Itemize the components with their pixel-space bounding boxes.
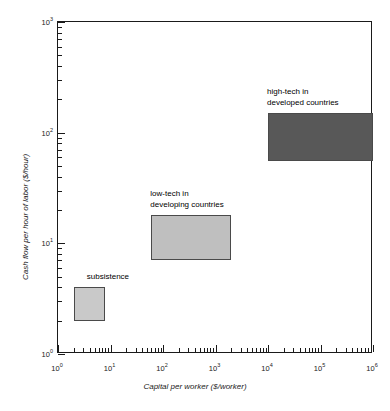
- y-tick-minor: [58, 210, 62, 211]
- x-tick-minor: [346, 348, 347, 352]
- x-tick-minor: [231, 348, 232, 352]
- x-tick-minor: [368, 348, 369, 352]
- x-tick-major: [321, 345, 322, 352]
- y-tick-minor: [58, 254, 62, 255]
- x-tick-minor: [300, 348, 301, 352]
- y-tick-minor: [58, 99, 62, 100]
- plot-area: [57, 21, 372, 353]
- x-tick-minor: [136, 348, 137, 352]
- region-label-subsistence: subsistence: [87, 271, 129, 282]
- y-tick-minor: [58, 277, 62, 278]
- x-tick-minor: [263, 348, 264, 352]
- x-tick-minor: [256, 348, 257, 352]
- log-log-chart-figure: Cash flow per hour of labor ($/hour) Cap…: [0, 0, 390, 411]
- x-tick-label: 101: [90, 363, 130, 372]
- x-tick-minor: [371, 348, 372, 352]
- y-tick-minor: [58, 143, 62, 144]
- x-tick-minor: [241, 348, 242, 352]
- y-tick-major: [58, 133, 65, 134]
- y-tick-minor: [58, 301, 62, 302]
- x-tick-minor: [312, 348, 313, 352]
- x-tick-minor: [357, 348, 358, 352]
- x-tick-minor: [161, 348, 162, 352]
- y-tick-minor: [58, 166, 62, 167]
- y-tick-minor: [58, 157, 62, 158]
- x-tick-minor: [213, 348, 214, 352]
- x-tick-minor: [200, 348, 201, 352]
- y-tick-minor: [58, 260, 62, 261]
- x-tick-minor: [361, 348, 362, 352]
- x-tick-minor: [90, 348, 91, 352]
- y-tick-minor: [58, 39, 62, 40]
- x-tick-minor: [126, 348, 127, 352]
- y-tick-minor: [58, 47, 62, 48]
- y-tick-minor: [58, 55, 62, 56]
- x-tick-minor: [318, 348, 319, 352]
- x-tick-major: [58, 345, 59, 352]
- x-tick-minor: [95, 348, 96, 352]
- x-tick-major: [373, 345, 374, 352]
- x-tick-minor: [195, 348, 196, 352]
- y-tick-label: 102: [42, 128, 53, 137]
- y-tick-minor: [58, 66, 62, 67]
- x-tick-label: 104: [247, 363, 287, 372]
- y-tick-minor: [58, 27, 62, 28]
- y-tick-minor: [58, 177, 62, 178]
- x-tick-minor: [142, 348, 143, 352]
- x-axis-title: Capital per worker ($/worker): [0, 383, 390, 391]
- x-tick-minor: [284, 348, 285, 352]
- x-tick-label: 102: [142, 363, 182, 372]
- x-tick-major: [163, 345, 164, 352]
- x-tick-minor: [260, 348, 261, 352]
- x-tick-minor: [105, 348, 106, 352]
- y-tick-minor: [58, 287, 62, 288]
- x-tick-minor: [252, 348, 253, 352]
- y-tick-minor: [58, 191, 62, 192]
- y-tick-label: 101: [42, 238, 53, 247]
- x-tick-major: [268, 345, 269, 352]
- y-tick-minor: [58, 150, 62, 151]
- x-tick-minor: [151, 348, 152, 352]
- y-tick-minor: [58, 138, 62, 139]
- y-tick-major: [58, 354, 65, 355]
- x-tick-minor: [365, 348, 366, 352]
- x-tick-minor: [179, 348, 180, 352]
- x-tick-minor: [336, 348, 337, 352]
- x-tick-minor: [247, 348, 248, 352]
- x-tick-minor: [108, 348, 109, 352]
- region-label-high-tech: high-tech in developed countries: [267, 86, 339, 108]
- x-tick-label: 100: [37, 363, 77, 372]
- region-box-low-tech: [151, 215, 231, 260]
- x-tick-minor: [207, 348, 208, 352]
- x-tick-major: [111, 345, 112, 352]
- x-tick-minor: [204, 348, 205, 352]
- y-tick-minor: [58, 80, 62, 81]
- x-tick-minor: [188, 348, 189, 352]
- y-tick-label: 103: [42, 17, 53, 26]
- x-tick-minor: [210, 348, 211, 352]
- region-box-subsistence: [74, 287, 106, 320]
- x-tick-minor: [102, 348, 103, 352]
- x-tick-minor: [74, 348, 75, 352]
- x-tick-label: 106: [352, 363, 390, 372]
- x-tick-label: 103: [195, 363, 235, 372]
- x-tick-minor: [266, 348, 267, 352]
- y-axis-title: Cash flow per hour of labor ($/hour): [22, 154, 30, 280]
- y-tick-label: 100: [42, 349, 53, 358]
- y-tick-major: [58, 22, 65, 23]
- x-tick-major: [216, 345, 217, 352]
- y-tick-minor: [58, 248, 62, 249]
- x-tick-minor: [83, 348, 84, 352]
- x-tick-minor: [309, 348, 310, 352]
- x-tick-minor: [158, 348, 159, 352]
- y-tick-minor: [58, 321, 62, 322]
- region-label-low-tech: low-tech in developing countries: [150, 188, 223, 210]
- y-tick-minor: [58, 268, 62, 269]
- x-tick-minor: [155, 348, 156, 352]
- x-tick-minor: [293, 348, 294, 352]
- region-box-high-tech: [268, 113, 373, 161]
- x-tick-minor: [315, 348, 316, 352]
- x-tick-label: 105: [300, 363, 340, 372]
- x-tick-minor: [147, 348, 148, 352]
- x-tick-minor: [352, 348, 353, 352]
